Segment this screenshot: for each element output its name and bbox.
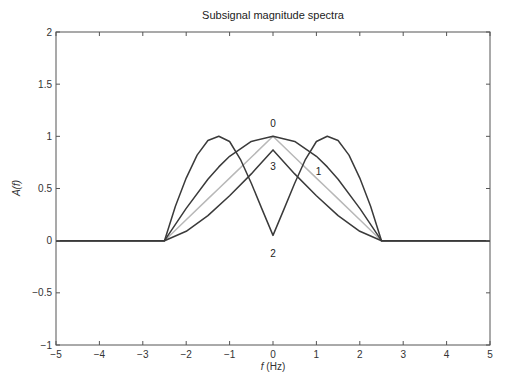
y-tick-label: 0.5 [38,183,52,194]
x-tick-label: −3 [137,349,149,360]
x-axis-label: f (Hz) [261,361,285,372]
x-tick-label: −5 [50,349,62,360]
curve-label-0: 0 [270,118,276,129]
y-tick-label: 1.5 [38,79,52,90]
y-tick-label: −0.5 [32,287,52,298]
x-tick-label: −2 [180,349,192,360]
x-tick-label: −4 [94,349,106,360]
y-tick-label: 0 [46,235,52,246]
curve-label-2: 2 [270,248,276,259]
chart: Subsignal magnitude spectra 0123 −5−4−3−… [0,0,514,382]
y-tick-label: 2 [46,27,52,38]
x-tick-label: 1 [314,349,320,360]
y-axis-label: A(f) [11,180,22,197]
x-tick-label: −1 [224,349,236,360]
curve-label-1: 1 [316,166,322,177]
x-tick-label: 3 [400,349,406,360]
x-tick-label: 2 [357,349,363,360]
axes-box [56,32,490,345]
x-tick-label: 4 [444,349,450,360]
chart-title: Subsignal magnitude spectra [202,9,345,21]
plot-area [56,32,490,345]
x-tick-label: 5 [487,349,493,360]
y-tick-label: 1 [46,131,52,142]
x-tick-label: 0 [270,349,276,360]
curve-label-3: 3 [270,161,276,172]
y-tick-label: −1 [41,340,53,351]
x-axis-label-unit: (Hz) [264,361,286,372]
